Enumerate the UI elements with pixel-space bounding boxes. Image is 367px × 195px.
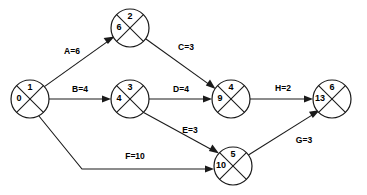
node-event-4-earliest: 9 [217,93,222,103]
edge-h-arrowhead [304,95,313,102]
edge-b-label: B=4 [72,84,88,94]
edge-e-arrowhead [209,145,219,154]
node-event-2-number: 2 [127,11,132,21]
edge-g: G=3 [248,110,320,155]
edge-g-label: G=3 [296,135,313,145]
node-event-6-earliest: 13 [315,93,325,103]
node-event-1[interactable]: 1 0 [11,80,49,118]
edge-d: D=4 [149,84,212,102]
node-event-2[interactable]: 2 6 [111,9,149,47]
node-event-4[interactable]: 4 9 [212,80,250,118]
node-event-5-earliest: 10 [216,160,226,170]
edge-d-arrowhead [203,95,212,102]
network-diagram-canvas: A=6 B=4 C=3 D=4 E=3 [0,0,367,195]
edge-c: C=3 [146,39,216,89]
edge-e-label: E=3 [182,125,198,135]
edge-e-line [144,113,214,151]
edge-a-label: A=6 [64,46,80,56]
edge-a: A=6 [44,36,114,86]
edge-h-label: H=2 [275,83,291,93]
edge-f: F=10 [39,116,215,173]
node-event-2-earliest: 6 [116,22,121,32]
edge-f-arrowhead [205,165,214,172]
edge-f-line [39,116,208,170]
edge-c-arrowhead [206,79,216,89]
node-event-5[interactable]: 5 10 [214,147,252,185]
edge-f-label: F=10 [125,151,145,161]
edge-d-label: D=4 [173,84,189,94]
edge-e: E=3 [144,113,219,154]
node-event-1-earliest: 0 [16,93,21,103]
node-event-4-number: 4 [228,82,233,92]
node-event-3-number: 3 [127,82,132,92]
node-event-6[interactable]: 6 13 [313,80,351,118]
node-event-1-number: 1 [27,82,32,92]
node-event-5-number: 5 [230,149,235,159]
edge-b: B=4 [49,84,111,102]
edge-b-arrowhead [102,95,111,102]
edge-c-label: C=3 [178,42,194,52]
node-event-3[interactable]: 3 4 [111,80,149,118]
node-event-6-number: 6 [329,82,334,92]
edge-h: H=2 [250,83,313,102]
node-event-3-earliest: 4 [116,93,121,103]
network-diagram: A=6 B=4 C=3 D=4 E=3 [0,0,367,195]
